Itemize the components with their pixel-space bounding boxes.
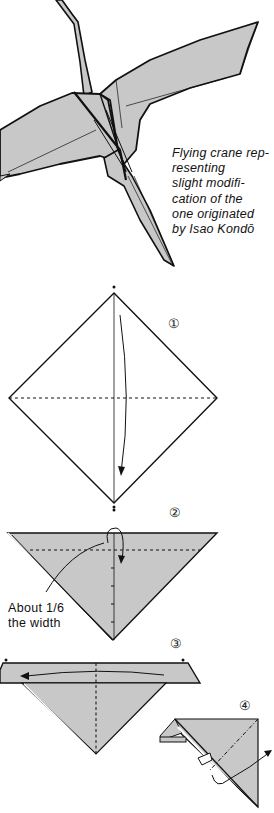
step-number-2: ② bbox=[169, 505, 181, 520]
caption-line: one originated bbox=[172, 207, 274, 222]
step-number-4: ④ bbox=[239, 698, 251, 713]
caption-line: resenting bbox=[172, 161, 274, 176]
origami-diagram bbox=[0, 0, 274, 813]
step-2-annotation: About 1/6 the width bbox=[8, 601, 64, 630]
caption-line: cation of the bbox=[172, 192, 274, 207]
caption-line: slight modifi- bbox=[172, 176, 274, 191]
step-number-1: ① bbox=[168, 316, 180, 331]
caption-line: Flying crane rep- bbox=[172, 146, 274, 161]
step-4-diagram bbox=[160, 719, 272, 807]
step-1-diagram bbox=[9, 286, 217, 509]
crane-caption: Flying crane rep- resenting slight modif… bbox=[172, 146, 274, 237]
annotation-line: the width bbox=[8, 616, 64, 631]
annotation-line: About 1/6 bbox=[8, 601, 64, 616]
step-number-3: ③ bbox=[170, 636, 182, 651]
caption-line: by Isao Kondō bbox=[172, 222, 274, 237]
